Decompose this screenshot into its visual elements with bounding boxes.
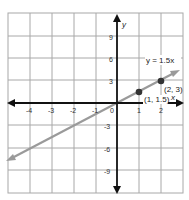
x-tick: -4	[26, 107, 32, 114]
point-2-3	[158, 78, 165, 85]
y-tick: 3	[109, 78, 113, 85]
x-tick: 0	[110, 107, 114, 114]
point-2-label: (2, 3)	[164, 85, 183, 94]
x-tick: -2	[70, 107, 76, 114]
y-tick: -6	[104, 146, 110, 153]
x-axis-label: x	[170, 93, 176, 102]
x-tick: -3	[48, 107, 54, 114]
y-tick: 9	[109, 34, 113, 41]
line-equation-label: y = 1.5x	[146, 56, 174, 65]
y-tick: 6	[109, 56, 113, 63]
point-1-label: (1, 1.5)	[144, 95, 170, 104]
point-1-1.5	[136, 89, 143, 96]
x-tick: -1	[92, 107, 98, 114]
coordinate-plane: y x -4 -3 -2 -1 0 1 2 9 6 3 -3 -6 -9 y =…	[0, 0, 189, 200]
y-axis-label: y	[121, 20, 127, 29]
x-tick: 1	[137, 107, 141, 114]
x-tick: 2	[159, 107, 163, 114]
line-y-1.5x	[6, 70, 180, 161]
y-tick: -9	[104, 168, 110, 175]
y-axis-arrow-up-icon	[113, 14, 121, 22]
line-arrow-upper-icon	[170, 70, 180, 77]
y-tick: -3	[104, 123, 110, 130]
